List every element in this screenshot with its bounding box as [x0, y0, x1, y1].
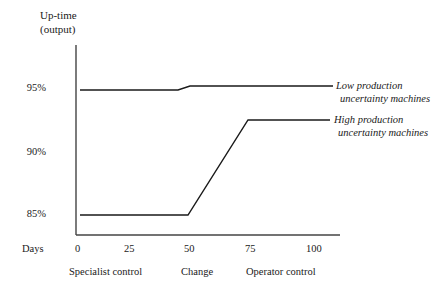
y-tick-label-90: 90%	[0, 146, 46, 158]
x-tick-label-50: 50	[184, 243, 195, 255]
series-label-high-uncertainty: High production uncertainty machines	[334, 113, 428, 139]
x-axis-title: Days	[22, 243, 44, 255]
series-line-high-uncertainty	[80, 120, 330, 215]
x-tick-label-25: 25	[124, 243, 135, 255]
x-tick-label-0: 0	[75, 243, 80, 255]
series-label-low-line2: uncertainty machines	[336, 92, 430, 105]
series-label-low-line1: Low production	[336, 80, 402, 91]
phase-label-specialist-control: Specialist control	[69, 266, 142, 278]
y-tick-label-85: 85%	[0, 208, 46, 220]
x-tick-label-75: 75	[245, 243, 256, 255]
y-tick-label-95: 95%	[0, 82, 46, 94]
series-label-low-uncertainty: Low production uncertainty machines	[336, 79, 430, 105]
phase-label-operator-control: Operator control	[246, 266, 316, 278]
plot-area	[0, 0, 439, 300]
series-label-high-line2: uncertainty machines	[334, 126, 428, 139]
series-line-low-uncertainty	[80, 86, 333, 90]
series-label-high-line1: High production	[334, 114, 403, 125]
x-tick-label-100: 100	[306, 243, 322, 255]
phase-label-change: Change	[181, 266, 213, 278]
chart-container: Up-time (output) 95% 90% 85% Days 0 25 5…	[0, 0, 439, 300]
